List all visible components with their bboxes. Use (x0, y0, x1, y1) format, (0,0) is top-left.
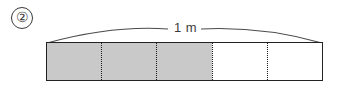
item-number-badge: ② (11, 7, 33, 29)
segmented-bar (46, 42, 323, 81)
bar-segment (212, 43, 267, 80)
fraction-bar-figure: ② 1 m (0, 0, 338, 97)
measure-arc-right-half (201, 29, 322, 43)
bar-segment (267, 43, 322, 80)
measure-arc-left-half (47, 28, 168, 43)
bar-segment (156, 43, 211, 80)
bar-segment (47, 43, 101, 80)
bar-segment (101, 43, 156, 80)
measure-length-label: 1 m (171, 20, 200, 36)
